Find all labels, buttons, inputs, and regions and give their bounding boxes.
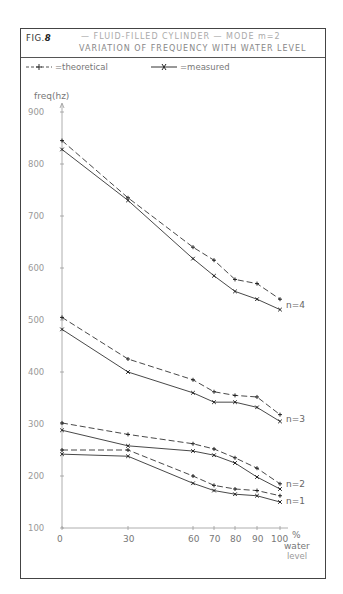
line-chart: freq(hz) 1002003004005006007008009000306… [0,0,343,594]
series-n-4-measured [60,148,282,312]
x-tick-label: 30 [123,534,135,544]
mode-label: n=1 [286,496,305,506]
mode-label: n=2 [286,479,305,489]
y-tick-label: 400 [28,367,44,377]
y-tick-label: 900 [28,107,44,117]
x-axis-label-level: level [287,551,307,561]
y-tick-label: 700 [28,211,44,221]
series-n-1-measured [60,452,282,503]
y-tick-label: 200 [28,471,44,481]
mode-label: n=3 [286,414,305,424]
x-tick-label: 90 [252,534,264,544]
series-n-4-theoretical [60,139,282,302]
y-tick-label: 800 [28,159,44,169]
x-tick-label: 0 [57,534,63,544]
y-tick-label: 100 [28,523,44,533]
series-n-3-measured [60,328,282,424]
x-tick-label: 80 [230,534,242,544]
x-tick-label: 60 [188,534,200,544]
mode-label: n=4 [286,300,305,310]
y-tick-label: 300 [28,419,44,429]
y-tick-label: 600 [28,263,44,273]
x-tick-label: 70 [209,534,221,544]
y-axis-label: freq(hz) [34,91,69,101]
x-axis-label-percent: % [292,530,301,540]
series-n-3-theoretical [60,315,282,416]
axes: 1002003004005006007008009000306070809010… [28,103,288,544]
series-n-2-theoretical [60,421,282,486]
y-tick-label: 500 [28,315,44,325]
x-axis-label-water: water [284,541,310,551]
series-n-2-measured [60,428,282,490]
data-series: n=4n=3n=2n=1 [60,139,305,507]
